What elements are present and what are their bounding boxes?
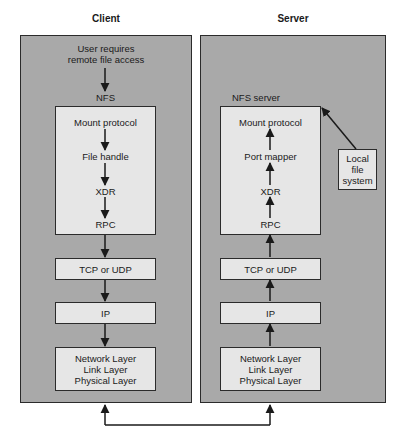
server-tcp-udp-box: TCP or UDP (220, 258, 321, 280)
server-link-layer: Link Layer (249, 364, 293, 375)
server-network-layer: Network Layer (240, 353, 301, 364)
server-port-mapper: Port mapper (220, 151, 321, 162)
server-nfs-label: NFS server (220, 92, 292, 103)
client-nfs-label: NFS (55, 92, 156, 103)
server-mount-protocol: Mount protocol (220, 117, 321, 128)
server-ip-box: IP (220, 302, 321, 324)
client-file-handle: File handle (55, 151, 156, 162)
client-rpc: RPC (55, 219, 156, 230)
client-user-line1: User requires (0, 43, 212, 54)
server-xdr: XDR (220, 186, 321, 197)
server-physical-layer: Physical Layer (240, 375, 302, 386)
client-lower-layers-box: Network Layer Link Layer Physical Layer (55, 347, 156, 391)
client-title: Client (20, 13, 192, 24)
client-tcp-udp-label: TCP or UDP (79, 264, 132, 275)
client-ip-label: IP (101, 308, 110, 319)
client-xdr: XDR (55, 186, 156, 197)
local-fs-line2: file (351, 164, 363, 175)
server-title: Server (200, 13, 386, 24)
client-link-layer: Link Layer (84, 364, 128, 375)
client-ip-box: IP (55, 302, 156, 324)
server-rpc: RPC (220, 219, 321, 230)
client-network-layer: Network Layer (75, 353, 136, 364)
local-file-system-box: Local file system (338, 149, 377, 190)
client-tcp-udp-box: TCP or UDP (55, 258, 156, 280)
server-lower-layers-box: Network Layer Link Layer Physical Layer (220, 347, 321, 391)
client-mount-protocol: Mount protocol (55, 117, 156, 128)
client-user-line2: remote file access (0, 54, 212, 65)
local-fs-line1: Local (346, 153, 369, 164)
local-fs-line3: system (342, 175, 372, 186)
server-ip-label: IP (266, 308, 275, 319)
client-physical-layer: Physical Layer (75, 375, 137, 386)
server-tcp-udp-label: TCP or UDP (244, 264, 297, 275)
